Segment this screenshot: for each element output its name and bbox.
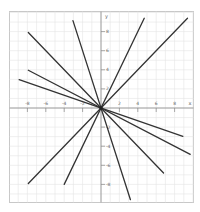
- y-tick-label: 2: [106, 86, 109, 91]
- x-tick-label: -8: [25, 101, 30, 106]
- x-tick-label: 2: [118, 101, 121, 106]
- x-tick-label: -4: [62, 101, 67, 106]
- y-tick-label: 4: [106, 67, 109, 72]
- y-tick-label: 8: [106, 29, 109, 34]
- y-axis-label: y: [105, 13, 108, 20]
- x-tick-label: 4: [136, 101, 139, 106]
- y-tick-label: -4: [106, 144, 111, 149]
- x-axis-label: x: [189, 100, 192, 106]
- y-tick-label: 6: [106, 48, 109, 53]
- x-tick-label: 8: [173, 101, 176, 106]
- x-tick-label: -6: [44, 101, 49, 106]
- y-tick-label: -6: [106, 163, 111, 168]
- x-tick-label: 6: [155, 101, 158, 106]
- origin-point: [99, 106, 103, 110]
- line-chart: -8-6-4-224688642-2-4-6-8xy: [0, 0, 200, 212]
- y-tick-label: -8: [106, 182, 111, 187]
